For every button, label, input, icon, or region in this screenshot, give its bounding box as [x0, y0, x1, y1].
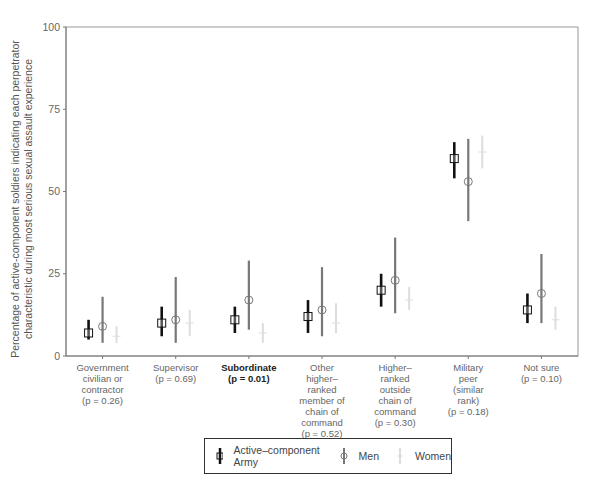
x-category-label: Military peer (similar rank) (p = 0.18) [428, 362, 508, 417]
svg-text:0: 0 [54, 350, 60, 362]
x-category-label: Not sure (p = 0.10) [501, 362, 581, 384]
legend: Active–component Army Men Women [204, 438, 452, 474]
series-1 [99, 139, 546, 343]
legend-label: Men [359, 450, 379, 462]
x-category-label: Supervisor (p = 0.69) [136, 362, 216, 384]
svg-text:50: 50 [48, 185, 60, 197]
svg-text:75: 75 [48, 103, 60, 115]
legend-item-army: Active–component Army [215, 444, 329, 468]
x-category-label: Government civilian or contractor (p = 0… [63, 362, 143, 406]
legend-army-icon [215, 447, 223, 465]
legend-label: Active–component Army [233, 444, 328, 468]
series-2 [113, 136, 560, 343]
legend-item-men: Men [339, 447, 379, 465]
svg-text:100: 100 [42, 21, 60, 33]
y-axis-ticks: 0255075100 [42, 21, 541, 362]
x-category-label: Higher– ranked outside chain of command … [355, 362, 435, 428]
legend-men-icon [339, 447, 349, 465]
x-category-label: Other higher– ranked member of chain of … [282, 362, 362, 439]
series-0 [85, 142, 532, 339]
y-axis-label: Percentage of active-component soldiers … [9, 34, 35, 364]
svg-text:25: 25 [48, 267, 60, 279]
legend-item-women: Women [395, 447, 451, 465]
legend-women-icon [395, 447, 405, 465]
legend-label: Women [415, 450, 451, 462]
data-series [85, 136, 560, 343]
x-category-label: Subordinate (p = 0.01) [209, 362, 289, 384]
